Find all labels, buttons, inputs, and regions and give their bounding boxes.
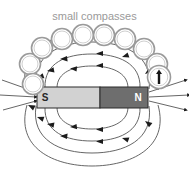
diagram-canvas: small compasses (0, 0, 189, 176)
field-arrow-icon (70, 124, 77, 129)
magnet-south-label: S (42, 92, 49, 103)
compass (52, 29, 73, 50)
field-arrow-icon (122, 137, 129, 142)
field-arrow-icon (28, 105, 36, 111)
field-line-below-3 (35, 106, 149, 153)
field-line-below-2 (45, 107, 140, 141)
field-line-below-1 (57, 107, 128, 129)
caption-label: small compasses (52, 10, 137, 22)
field-arrow-icon (70, 66, 77, 71)
magnetic-field-diagram: small compasses (0, 0, 189, 176)
field-arrow-icon (60, 134, 68, 139)
bar-magnet: S N (37, 87, 148, 108)
field-arrow-icon (122, 52, 129, 57)
compass (23, 74, 44, 95)
compass (94, 25, 115, 46)
field-line-left-2 (0, 95, 36, 97)
compass (115, 29, 136, 50)
field-line-above-2 (45, 54, 140, 88)
field-arrow-icon (96, 51, 103, 56)
compass (32, 38, 53, 59)
field-arrow-icon (60, 56, 68, 61)
field-line-above-1 (57, 66, 128, 88)
field-arrow-icon (96, 127, 103, 132)
compasses-group (20, 25, 171, 95)
compass (73, 25, 94, 46)
field-line-right-2 (149, 95, 189, 97)
field-arrows-below (28, 105, 152, 144)
field-arrow-icon (96, 63, 103, 68)
magnet-north-label: N (134, 92, 141, 103)
field-arrow-icon (37, 117, 44, 122)
compass-with-needle (148, 66, 171, 89)
field-line-right-3 (149, 101, 186, 110)
field-arrow-icon (96, 139, 103, 144)
